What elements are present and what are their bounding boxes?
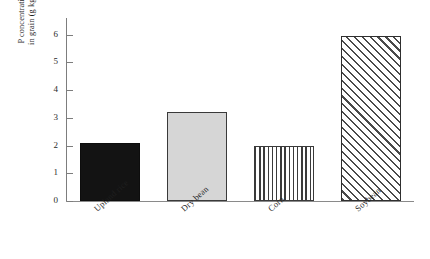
y-tick-label: 4	[36, 84, 58, 94]
y-tick-label: 6	[36, 29, 58, 39]
y-tick-mark	[67, 201, 73, 202]
bar-corn	[254, 146, 314, 201]
y-tick-label: 3	[36, 112, 58, 122]
bar-chart: P concentration in grain (g kg−1) 012345…	[0, 0, 430, 259]
bars-layer	[66, 18, 414, 201]
y-tick-label: 1	[36, 167, 58, 177]
y-tick-label: 5	[36, 56, 58, 66]
bar-dry-bean	[167, 112, 227, 201]
y-axis-title-line2-text: in grain (g kg	[27, 0, 36, 45]
y-tick-label: 2	[36, 140, 58, 150]
y-axis-title-line1: P concentration	[17, 0, 27, 44]
y-tick-label: 0	[36, 195, 58, 205]
bar-soybean	[341, 36, 401, 201]
